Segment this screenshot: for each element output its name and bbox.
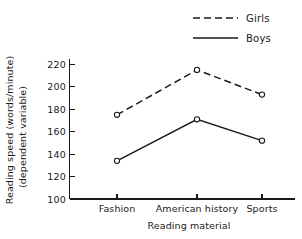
- y-tick-label-200: 200: [47, 81, 66, 92]
- x-axis-title: Reading material: [148, 220, 231, 231]
- chart-axes: [70, 59, 296, 199]
- y-axis-tick-labels: 220 200 180 160 140 120 100: [47, 59, 66, 205]
- y-tick-label-100: 100: [47, 194, 66, 205]
- data-point-girls-sports: [259, 92, 264, 97]
- y-tick-label-160: 160: [47, 126, 66, 137]
- y-axis-ticks: [70, 64, 76, 199]
- chart-figure: Girls Boys 220 200 180 160 140: [0, 0, 302, 239]
- line-chart: Girls Boys 220 200 180 160 140: [0, 0, 302, 239]
- y-tick-label-120: 120: [47, 171, 66, 182]
- y-tick-label-140: 140: [47, 149, 66, 160]
- data-point-girls-american-history: [194, 67, 199, 72]
- x-tick-label-fashion: Fashion: [99, 203, 136, 214]
- y-tick-label-220: 220: [47, 59, 66, 70]
- series-line-girls: [117, 70, 262, 115]
- data-point-boys-american-history: [194, 117, 199, 122]
- y-axis-title-line2: (dependent variable): [17, 86, 28, 188]
- data-point-boys-sports: [259, 138, 264, 143]
- data-point-girls-fashion: [114, 112, 119, 117]
- x-axis-tick-labels: Fashion American history Sports: [99, 203, 278, 214]
- x-axis-ticks: [117, 194, 262, 199]
- legend-label-girls: Girls: [246, 13, 270, 24]
- x-tick-label-sports: Sports: [246, 203, 277, 214]
- x-tick-label-american-history: American history: [156, 203, 239, 214]
- series-boys: [114, 117, 264, 164]
- series-girls: [114, 67, 264, 117]
- y-axis-title-line1: Reading speed (words/minute): [4, 56, 15, 205]
- chart-legend: Girls Boys: [193, 13, 271, 44]
- series-line-boys: [117, 119, 262, 161]
- data-point-boys-fashion: [114, 158, 119, 163]
- y-tick-label-180: 180: [47, 104, 66, 115]
- legend-label-boys: Boys: [246, 33, 271, 44]
